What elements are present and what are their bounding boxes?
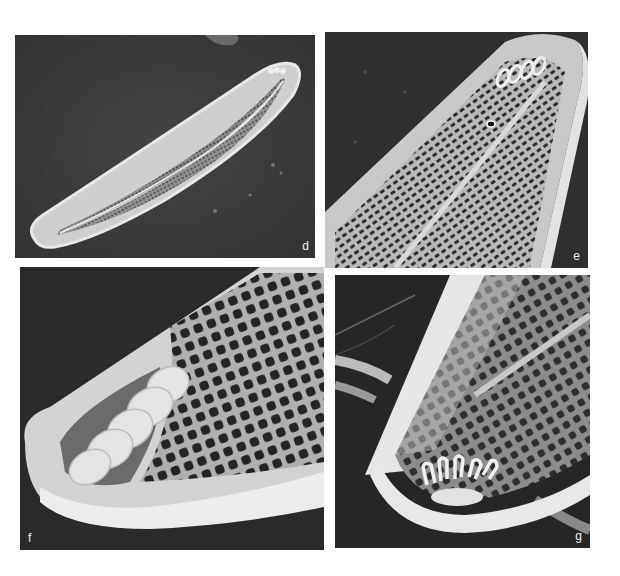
micrograph-panel-e: e — [325, 32, 588, 268]
micrograph-panel-f: f — [20, 267, 324, 550]
micrograph-panel-d: d — [15, 35, 315, 258]
diatom-apex-enlarged-image — [20, 267, 324, 550]
panel-label-g: g — [575, 530, 582, 542]
panel-label-f: f — [28, 532, 31, 544]
panel-label-d: d — [302, 240, 309, 252]
micrograph-panel-g: g — [335, 275, 590, 548]
diatom-apex-oblique-image — [335, 275, 590, 548]
diatom-apex-internal-image — [325, 32, 588, 268]
diatom-valve-whole-image — [15, 35, 315, 258]
panel-label-e: e — [573, 250, 580, 262]
